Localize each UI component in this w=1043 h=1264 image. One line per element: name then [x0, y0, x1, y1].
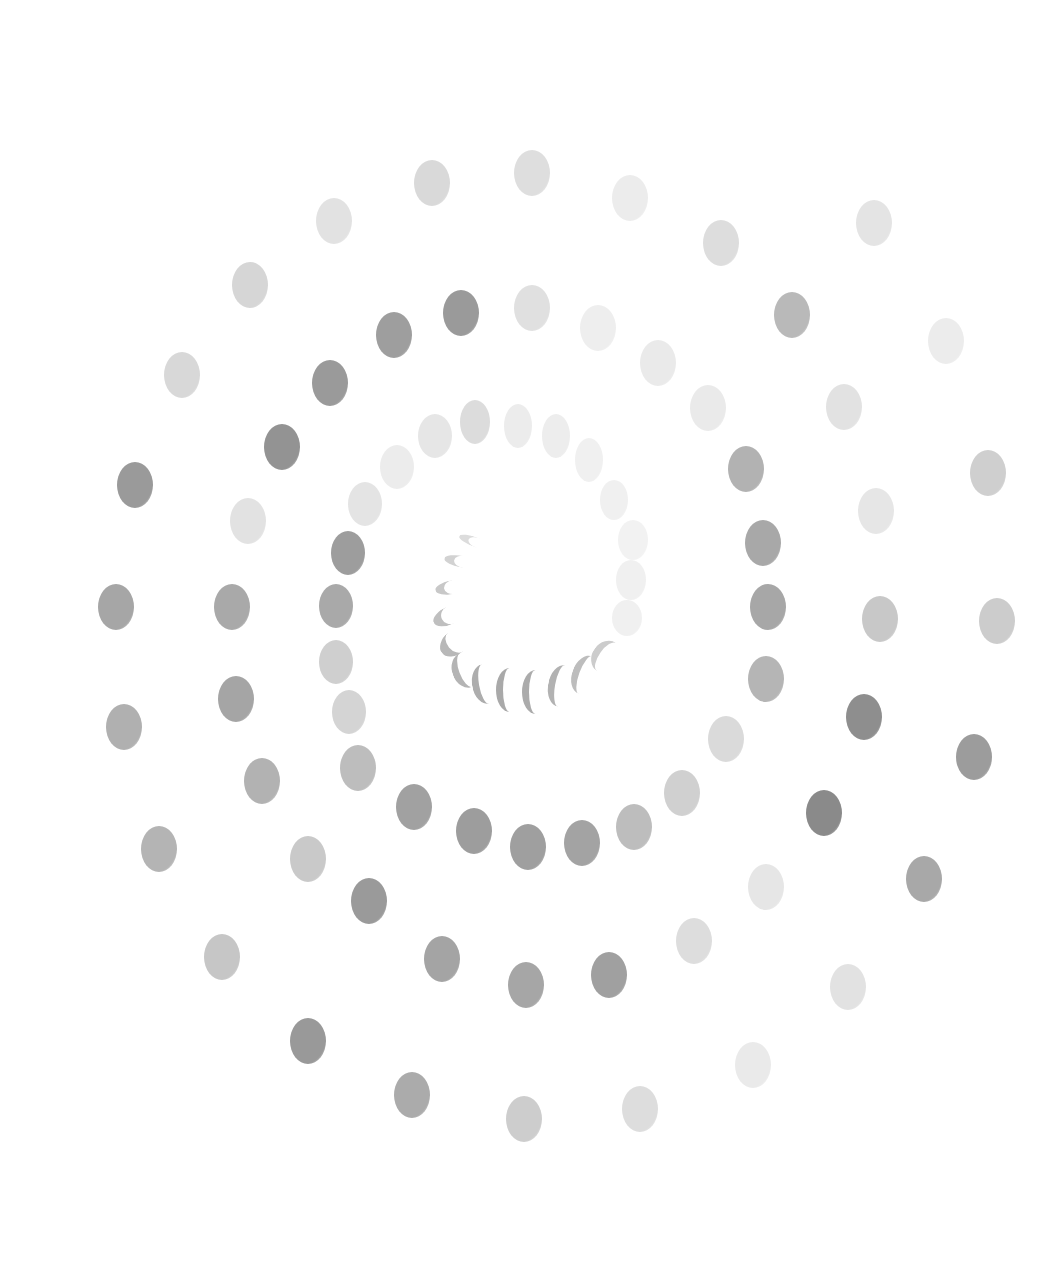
spiral-dot	[846, 694, 882, 740]
spiral-crescent	[457, 531, 498, 554]
spiral-dot	[514, 285, 550, 331]
spiral-crescent	[430, 599, 471, 631]
spiral-dot	[856, 200, 892, 246]
spiral-dot	[616, 560, 646, 600]
spiral-dot	[230, 498, 266, 544]
spiral-dot	[612, 600, 642, 636]
spiral-dot	[98, 584, 134, 630]
spiral-dot	[290, 1018, 326, 1064]
spiral-dot	[580, 305, 616, 351]
spiral-dot	[316, 198, 352, 244]
spiral-dot	[862, 596, 898, 642]
spiral-dot	[506, 1096, 542, 1142]
spiral-dot	[618, 520, 648, 560]
spiral-dot	[348, 482, 382, 526]
spiral-dot	[591, 952, 627, 998]
spiral-dot	[376, 312, 412, 358]
spiral-dot	[728, 446, 764, 492]
spiral-dot	[640, 340, 676, 386]
spiral-dot	[214, 584, 250, 630]
spiral-dot	[708, 716, 744, 762]
spiral-dot	[956, 734, 992, 780]
spiral-dot	[830, 964, 866, 1010]
spiral-dot	[460, 400, 490, 444]
spiral-dot	[396, 784, 432, 830]
spiral-dot	[748, 864, 784, 910]
spiral-dot	[380, 445, 414, 489]
spiral-crescent	[434, 577, 473, 597]
spiral-dot	[750, 584, 786, 630]
spiral-dot	[290, 836, 326, 882]
spiral-dot	[508, 962, 544, 1008]
spiral-dot	[394, 1072, 430, 1118]
spiral-dot	[424, 936, 460, 982]
spiral-dot	[414, 160, 450, 206]
spiral-dot	[703, 220, 739, 266]
spiral-dot	[443, 290, 479, 336]
spiral-dot	[456, 808, 492, 854]
spiral-dot	[312, 360, 348, 406]
spiral-dot	[117, 462, 153, 508]
spiral-dot	[826, 384, 862, 430]
spiral-dot	[332, 690, 366, 734]
spiral-crescent	[443, 553, 484, 572]
spiral-dot	[616, 804, 652, 850]
spiral-dot	[542, 414, 570, 458]
spiral-dot	[141, 826, 177, 872]
spiral-dot	[331, 531, 365, 575]
spiral-dot	[351, 878, 387, 924]
spiral-dot	[106, 704, 142, 750]
spiral-crescent	[496, 668, 523, 712]
spiral-dot	[745, 520, 781, 566]
spiral-dot	[514, 150, 550, 196]
spiral-dot	[735, 1042, 771, 1088]
spiral-dot	[928, 318, 964, 364]
spiral-dot	[806, 790, 842, 836]
spiral-dot	[204, 934, 240, 980]
spiral-dot	[164, 352, 200, 398]
spiral-dots-canvas	[0, 0, 1043, 1264]
spiral-dot	[906, 856, 942, 902]
spiral-dot	[264, 424, 300, 470]
spiral-dot	[774, 292, 810, 338]
spiral-dot	[748, 656, 784, 702]
spiral-dot	[510, 824, 546, 870]
spiral-dot	[676, 918, 712, 964]
spiral-dot	[218, 676, 254, 722]
spiral-dot	[664, 770, 700, 816]
spiral-dot	[232, 262, 268, 308]
spiral-dot	[319, 584, 353, 628]
spiral-dot	[418, 414, 452, 458]
spiral-dot	[690, 385, 726, 431]
spiral-dot	[564, 820, 600, 866]
spiral-crescent	[522, 670, 549, 714]
spiral-dot	[575, 438, 603, 482]
spiral-dot	[244, 758, 280, 804]
spiral-dot	[622, 1086, 658, 1132]
spiral-dot	[970, 450, 1006, 496]
spiral-dot	[600, 480, 628, 520]
spiral-dot	[340, 745, 376, 791]
spiral-dot	[319, 640, 353, 684]
spiral-dot	[979, 598, 1015, 644]
spiral-dot	[612, 175, 648, 221]
spiral-dot	[858, 488, 894, 534]
spiral-dot	[504, 404, 532, 448]
